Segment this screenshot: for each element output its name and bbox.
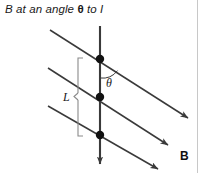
charge-dot [96, 93, 104, 101]
magnetic-field-line [50, 30, 188, 118]
length-brace [74, 58, 83, 136]
field-label-B: B [180, 149, 189, 163]
length-brace-middle-tick [74, 93, 78, 100]
length-label: L [62, 90, 70, 104]
angle-label: θ [106, 76, 112, 90]
physics-diagram: θ L B [0, 0, 198, 173]
charge-dot [96, 55, 104, 63]
length-brace-lower [78, 100, 83, 136]
charge-dot [96, 131, 104, 139]
figure-container: B at an angle θ to I [0, 0, 198, 173]
